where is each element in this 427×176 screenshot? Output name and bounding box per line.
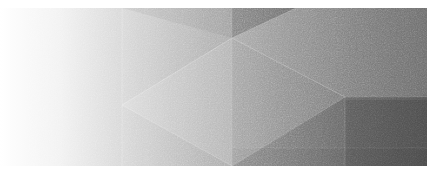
abstract-geometric-banner <box>0 0 427 176</box>
polygon-facets <box>0 8 427 166</box>
banner-artwork <box>0 0 427 176</box>
facet-group <box>0 8 427 166</box>
banner-vector-canvas <box>0 0 427 176</box>
bottom-white-matte <box>0 166 427 176</box>
facet-baseline-strip <box>232 148 427 166</box>
top-white-matte <box>0 0 427 8</box>
